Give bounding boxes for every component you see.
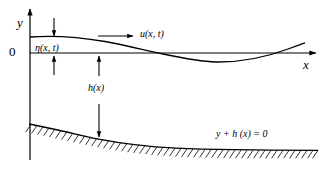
y-axis-label: y bbox=[17, 16, 23, 29]
bed-equation-label: y + h (x) = 0 bbox=[216, 129, 268, 139]
surface-elevation-label: η(x, t) bbox=[35, 43, 59, 53]
free-surface-curve bbox=[30, 36, 305, 62]
diagram-canvas bbox=[0, 0, 326, 172]
depth-label: h(x) bbox=[88, 83, 104, 93]
x-axis-label: x bbox=[303, 58, 309, 71]
sea-bed-hatching bbox=[26, 124, 318, 158]
origin-label: 0 bbox=[9, 45, 16, 58]
velocity-label: u(x, t) bbox=[140, 29, 164, 39]
wave-schematic-figure: y x 0 η(x, t) u(x, t) h(x) y + h (x) = 0 bbox=[0, 0, 326, 172]
sea-bed-curve bbox=[29, 124, 318, 150]
